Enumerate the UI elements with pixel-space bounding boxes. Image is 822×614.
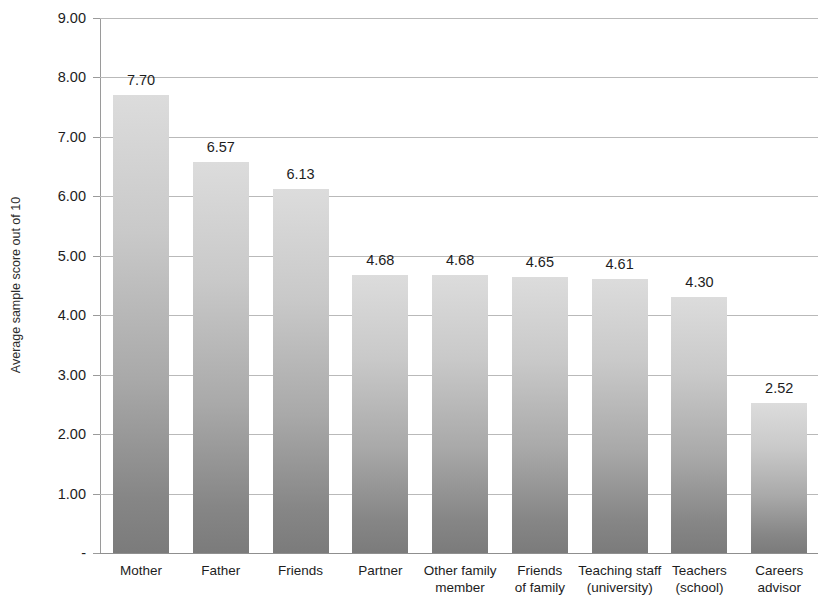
x-axis-category-label-line: advisor [737, 579, 821, 596]
y-axis-tick-label: 1.00 [20, 486, 86, 502]
bar-value-label: 6.13 [261, 166, 341, 182]
gridline [100, 137, 818, 138]
y-axis-tick-mark [93, 137, 100, 138]
gridline [100, 77, 818, 78]
bar-chart: Average sample score out of 10 9.008.007… [0, 0, 822, 614]
x-axis-category-label-line: member [418, 579, 502, 596]
y-axis-tick-mark [93, 494, 100, 495]
x-axis-category-label-line: Partner [338, 562, 422, 579]
y-axis-tick-label: 6.00 [20, 188, 86, 204]
x-axis-category-label-line: Friends [259, 562, 343, 579]
y-axis-tick-label: 2.00 [20, 426, 86, 442]
x-axis-category-label: Mother [99, 562, 183, 579]
y-axis-tick-label: 4.00 [20, 307, 86, 323]
bar-value-label: 2.52 [739, 380, 819, 396]
y-axis-tick-mark [93, 434, 100, 435]
y-axis-tick-label: 8.00 [20, 69, 86, 85]
bar [512, 277, 568, 553]
x-axis-category-label-line: Teachers [657, 562, 741, 579]
bar-value-label: 4.68 [420, 252, 500, 268]
axis-baseline [100, 553, 818, 554]
bar [432, 275, 488, 553]
y-axis-tick-mark [93, 196, 100, 197]
bar-value-label: 7.70 [101, 72, 181, 88]
y-axis-tick-mark [93, 553, 100, 554]
bar [592, 279, 648, 553]
y-axis-tick-label: 7.00 [20, 129, 86, 145]
y-axis-tick-label: 9.00 [20, 10, 86, 26]
x-axis-category-label-line: Friends [498, 562, 582, 579]
bar [273, 189, 329, 553]
x-axis-category-label: Careersadvisor [737, 562, 821, 596]
x-axis-category-label-line: (university) [578, 579, 662, 596]
x-axis-category-label-line: Careers [737, 562, 821, 579]
x-axis-category-label: Teachers(school) [657, 562, 741, 596]
bar-value-label: 4.61 [580, 256, 660, 272]
bar [352, 275, 408, 553]
x-axis-category-label-line: Teaching staff [578, 562, 662, 579]
bar [751, 403, 807, 553]
y-axis-tick-mark [93, 315, 100, 316]
y-axis-tick-mark [93, 77, 100, 78]
bar-value-label: 4.30 [659, 274, 739, 290]
chart-title [18, 0, 808, 4]
x-axis-category-label: Other familymember [418, 562, 502, 596]
x-axis-category-label: Friends [259, 562, 343, 579]
x-axis-category-label-line: (school) [657, 579, 741, 596]
bar [113, 95, 169, 553]
x-axis-category-label: Father [179, 562, 263, 579]
bar [671, 297, 727, 553]
y-axis-tick-label: 5.00 [20, 248, 86, 264]
y-axis-tick-label: - [20, 545, 86, 561]
x-axis-category-label: Teaching staff(university) [578, 562, 662, 596]
bar-value-label: 4.65 [500, 254, 580, 270]
x-axis-category-label-line: Mother [99, 562, 183, 579]
y-axis-tick-mark [93, 18, 100, 19]
bar [193, 162, 249, 553]
x-axis-category-label-line: Other family [418, 562, 502, 579]
y-axis-tick-label: 3.00 [20, 367, 86, 383]
x-axis-category-label-line: Father [179, 562, 263, 579]
bar-value-label: 6.57 [181, 139, 261, 155]
gridline [100, 18, 818, 19]
x-axis-category-label: Partner [338, 562, 422, 579]
x-axis-category-label-line: of family [498, 579, 582, 596]
bar-value-label: 4.68 [340, 252, 420, 268]
y-axis-tick-mark [93, 256, 100, 257]
x-axis-category-label: Friendsof family [498, 562, 582, 596]
y-axis-tick-mark [93, 375, 100, 376]
y-axis-tick-labels: 9.008.007.006.005.004.003.002.001.00- [14, 0, 86, 614]
